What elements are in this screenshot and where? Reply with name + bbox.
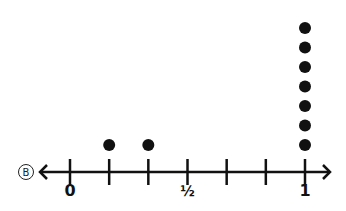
data-dots — [103, 22, 311, 151]
data-dot — [299, 22, 311, 34]
tick-label: 1 — [299, 181, 310, 200]
data-dot — [299, 61, 311, 73]
tick-labels: 0½1 — [64, 181, 310, 200]
data-dot — [142, 139, 154, 151]
data-dot — [299, 120, 311, 132]
tick-label: ½ — [180, 183, 195, 199]
tick-label: 0 — [64, 181, 75, 200]
problem-label: B — [19, 165, 34, 180]
data-dot — [103, 139, 115, 151]
data-dot — [299, 139, 311, 151]
svg-text:B: B — [23, 167, 30, 178]
data-dot — [299, 100, 311, 112]
dot-plot: B 0½1 — [0, 0, 346, 211]
data-dot — [299, 42, 311, 54]
data-dot — [299, 81, 311, 93]
number-line-axis — [40, 165, 330, 179]
